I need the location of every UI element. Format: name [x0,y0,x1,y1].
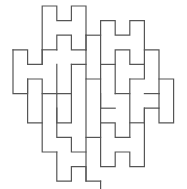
tile-edge [57,35,86,64]
tile-edge [57,152,86,181]
tile-edge [57,64,72,93]
tile-edge [13,50,57,94]
tile-edge [130,64,145,79]
tile-edge [42,94,57,152]
tile-edge [71,64,100,79]
h-tile-tessellation [0,0,187,189]
tile-edge [101,94,130,138]
tile-edge [57,94,72,123]
tile-edge [13,50,42,65]
tile-edge [86,79,101,181]
tile-outlines [13,6,174,189]
tile-edge [28,79,43,123]
